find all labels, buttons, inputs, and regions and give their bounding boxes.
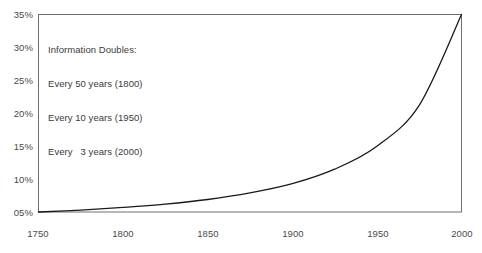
x-tick-label: 2000	[440, 228, 482, 239]
y-tick-label: 35%	[3, 9, 33, 20]
x-tick-label: 1750	[16, 228, 60, 239]
chart-container: 35% 30% 25% 20% 15% 10% 05% 1750 1800 18…	[0, 0, 482, 253]
annotation-line: Information Doubles:	[48, 44, 143, 55]
y-tick-label: 25%	[3, 75, 33, 86]
annotation-line: Every 10 years (1950)	[48, 112, 143, 123]
y-tick-label: 05%	[3, 207, 33, 218]
y-tick-label: 30%	[3, 42, 33, 53]
x-tick-label: 1800	[101, 228, 145, 239]
y-tick-label: 20%	[3, 108, 33, 119]
annotation-line: Every 3 years (2000)	[48, 146, 143, 157]
annotation-line: Every 50 years (1800)	[48, 78, 143, 89]
y-tick-label: 15%	[3, 141, 33, 152]
x-tick-label: 1850	[186, 228, 230, 239]
x-tick-label: 1900	[271, 228, 315, 239]
y-tick-label: 10%	[3, 174, 33, 185]
x-tick-label: 1950	[356, 228, 400, 239]
information-doubles-annotation: Information Doubles: Every 50 years (180…	[48, 21, 143, 181]
